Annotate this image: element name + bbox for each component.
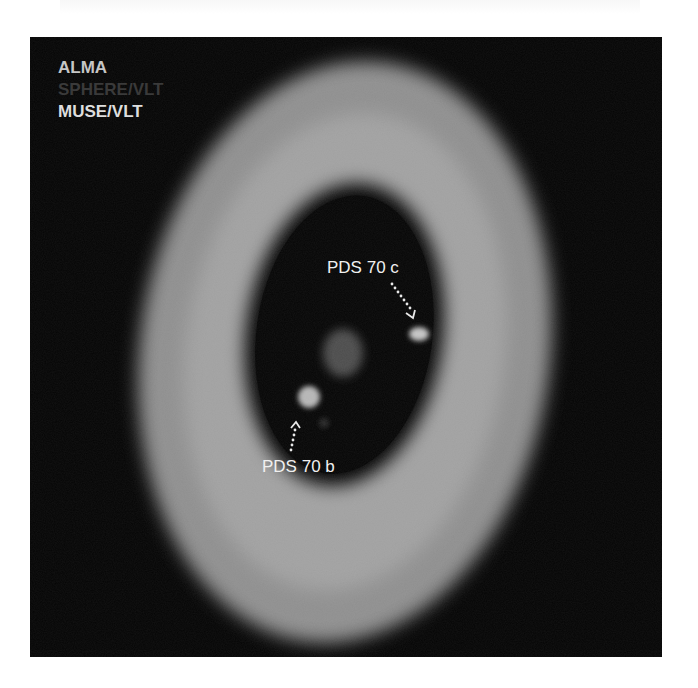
legend-muse-vlt: MUSE/VLT [58,101,163,123]
noise-overlay [30,37,662,657]
legend-alma: ALMA [58,57,163,79]
label-pds70c: PDS 70 c [327,258,399,278]
legend-sphere-vlt: SPHERE/VLT [58,79,163,101]
disk-illustration [30,37,662,657]
cropped-text-fragment [60,0,640,14]
instrument-legend: ALMA SPHERE/VLT MUSE/VLT [58,57,163,123]
label-pds70b: PDS 70 b [262,457,335,477]
disk-image-panel: ALMA SPHERE/VLT MUSE/VLT PDS 70 c PDS 70… [30,37,662,657]
